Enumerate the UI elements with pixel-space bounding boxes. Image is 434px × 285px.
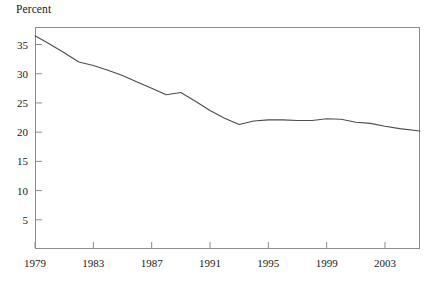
- x-tick-label-2003: 2003: [365, 257, 405, 269]
- y-axis-tick-marks: [36, 45, 42, 220]
- x-tick-label-1979: 1979: [15, 257, 55, 269]
- y-tick-label-15: 15: [6, 155, 28, 167]
- y-tick-label-25: 25: [6, 97, 28, 109]
- x-tick-label-1995: 1995: [248, 257, 288, 269]
- x-tick-label-1987: 1987: [132, 257, 172, 269]
- y-tick-label-5: 5: [6, 214, 28, 226]
- y-tick-label-20: 20: [6, 126, 28, 138]
- x-tick-label-1999: 1999: [307, 257, 347, 269]
- y-tick-label-35: 35: [6, 39, 28, 51]
- y-tick-label-30: 30: [6, 68, 28, 80]
- x-axis-tick-marks: [35, 242, 385, 248]
- y-tick-label-10: 10: [6, 185, 28, 197]
- x-tick-label-1983: 1983: [73, 257, 113, 269]
- chart-canvas: [0, 0, 434, 285]
- data-line-percent: [35, 36, 420, 131]
- chart-figure: Percent 5101520253035 197919831987199119…: [0, 0, 434, 285]
- x-tick-label-1991: 1991: [190, 257, 230, 269]
